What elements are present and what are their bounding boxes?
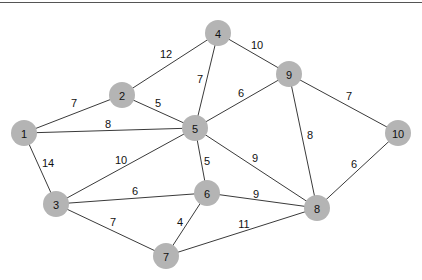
edge-weight-label: 11 [238,218,249,230]
edge-weight-label: 6 [238,87,244,99]
edge-weight-label: 14 [42,157,54,169]
edge-weight-label: 5 [155,97,161,109]
weighted-graph-diagram: 781412571061059786679411 12345678910 [0,0,422,280]
edge-weight-label: 8 [105,118,111,130]
node-label: 6 [204,188,210,200]
edge-2-4 [122,33,218,95]
edge-weight-label: 7 [346,90,352,102]
edge-weight-label: 7 [71,97,77,109]
edge-weight-label: 7 [197,73,203,85]
edge-weight-label: 4 [177,216,183,228]
edge-10-8 [317,133,398,208]
node-label: 1 [21,128,27,140]
node-7: 7 [153,243,179,269]
nodes-layer: 12345678910 [11,20,411,269]
edge-weight-label: 7 [110,216,116,228]
edge-weight-label: 10 [115,154,127,166]
node-3: 3 [43,191,69,217]
edge-weight-label: 10 [251,39,263,51]
edge-3-7 [56,204,166,256]
node-9: 9 [276,61,302,87]
node-label: 4 [215,28,221,40]
node-8: 8 [304,195,330,221]
node-4: 4 [205,20,231,46]
edge-weight-label: 12 [160,48,172,60]
edge-weight-label: 9 [253,188,259,200]
edge-7-8 [166,208,317,256]
edge-9-8 [289,74,317,208]
edge-5-3 [56,128,195,204]
node-1: 1 [11,120,37,146]
node-2: 2 [109,82,135,108]
node-label: 10 [392,128,404,140]
edge-weight-label: 6 [132,185,138,197]
node-label: 3 [53,199,59,211]
node-label: 5 [192,123,198,135]
node-10: 10 [385,120,411,146]
edge-weight-label: 9 [252,152,258,164]
node-label: 7 [163,251,169,263]
edge-9-10 [289,74,398,133]
edges-layer [24,33,398,256]
edge-weight-label: 8 [307,129,313,141]
edge-weight-label: 5 [204,155,210,167]
node-label: 9 [286,69,292,81]
node-5: 5 [182,115,208,141]
edge-5-9 [195,74,289,128]
edge-6-8 [207,193,317,208]
edge-weight-label: 6 [351,158,357,170]
node-label: 2 [119,90,125,102]
node-label: 8 [314,203,320,215]
node-6: 6 [194,180,220,206]
